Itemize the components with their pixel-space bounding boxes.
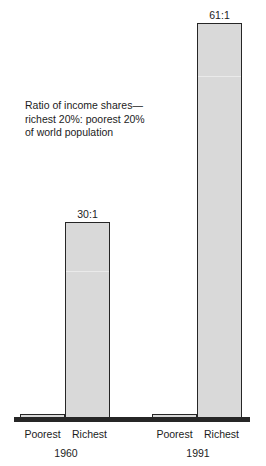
axis-label-1991-richest: Richest xyxy=(192,428,251,440)
bar-1991-richest xyxy=(197,23,242,421)
value-label-1991-richest: 61:1 xyxy=(197,9,242,21)
bar-chart: Ratio of income shares— richest 20%: poo… xyxy=(0,0,266,466)
bar-1960-richest xyxy=(65,222,110,421)
value-label-1960-richest: 30:1 xyxy=(65,208,110,220)
group-label-1991: 1991 xyxy=(168,447,228,459)
group-label-1960: 1960 xyxy=(36,447,96,459)
plot-area: 30:1 61:1 xyxy=(0,0,266,421)
axis-label-1960-richest: Richest xyxy=(60,428,119,440)
axis-baseline xyxy=(14,417,250,422)
